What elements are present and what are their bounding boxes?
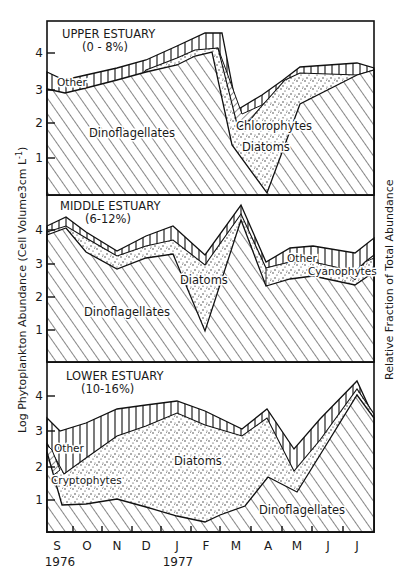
svg-text:3: 3 bbox=[35, 83, 43, 97]
lower-other-label: Other bbox=[54, 442, 84, 454]
upper-other-label: Other bbox=[57, 76, 87, 88]
lower-subtitle: (10-16%) bbox=[81, 382, 134, 396]
y-tick-labels: 12 34 12 34 12 34 bbox=[35, 46, 43, 507]
svg-text:2: 2 bbox=[35, 290, 43, 304]
lower-crypto-label: Cryptophytes bbox=[51, 474, 122, 486]
svg-text:2: 2 bbox=[35, 116, 43, 130]
svg-text:S: S bbox=[53, 539, 61, 553]
lower-dino-label: Dinoflagellates bbox=[259, 503, 345, 517]
year-1977-label: 1977 bbox=[163, 555, 194, 569]
svg-text:4: 4 bbox=[35, 223, 43, 237]
svg-text:4: 4 bbox=[35, 389, 43, 403]
upper-diatoms-label: Diatoms bbox=[242, 140, 290, 154]
svg-text:1: 1 bbox=[35, 151, 43, 165]
svg-text:M: M bbox=[231, 539, 241, 553]
svg-text:4: 4 bbox=[35, 46, 43, 60]
year-1976-label: 1976 bbox=[45, 555, 76, 569]
upper-chloro-label: Chlorophytes bbox=[236, 119, 312, 133]
svg-text:N: N bbox=[113, 539, 122, 553]
middle-title: MIDDLE ESTUARY bbox=[60, 199, 161, 213]
svg-text:1: 1 bbox=[35, 323, 43, 337]
lower-diatoms-label: Diatoms bbox=[174, 454, 222, 468]
middle-diatoms-label: Diatoms bbox=[180, 273, 228, 287]
x-month-labels: S O N D J F M A M J J 1976 1977 bbox=[45, 539, 359, 569]
phytoplankton-chart: 12 34 12 34 12 34 S O N D J F M A M J J … bbox=[0, 0, 410, 578]
upper-estuary-panel bbox=[47, 33, 374, 195]
middle-cyano-label: Cyanophytes bbox=[308, 265, 377, 277]
svg-text:F: F bbox=[203, 539, 210, 553]
svg-text:A: A bbox=[264, 539, 273, 553]
svg-text:D: D bbox=[141, 539, 150, 553]
middle-dino-label: Dinoflagellates bbox=[84, 305, 170, 319]
upper-dino-label: Dinoflagellates bbox=[89, 126, 175, 140]
svg-text:M: M bbox=[292, 539, 302, 553]
middle-subtitle: (6-12%) bbox=[85, 212, 131, 226]
right-axis-title: Relative Fraction of Total Abundance bbox=[383, 179, 396, 380]
svg-text:3: 3 bbox=[35, 257, 43, 271]
svg-text:J: J bbox=[174, 539, 179, 553]
svg-text:O: O bbox=[82, 539, 91, 553]
lower-title: LOWER ESTUARY bbox=[66, 369, 164, 383]
svg-text:J: J bbox=[354, 539, 359, 553]
svg-text:3: 3 bbox=[35, 424, 43, 438]
y-axis-title: Log Phytoplankton Abundance (Cell Volume… bbox=[15, 147, 29, 433]
svg-text:2: 2 bbox=[35, 460, 43, 474]
upper-title: UPPER ESTUARY bbox=[62, 27, 156, 41]
middle-other-label: Other bbox=[287, 252, 317, 264]
svg-text:J: J bbox=[325, 539, 330, 553]
svg-text:1: 1 bbox=[35, 493, 43, 507]
upper-subtitle: (0 - 8%) bbox=[82, 40, 128, 54]
